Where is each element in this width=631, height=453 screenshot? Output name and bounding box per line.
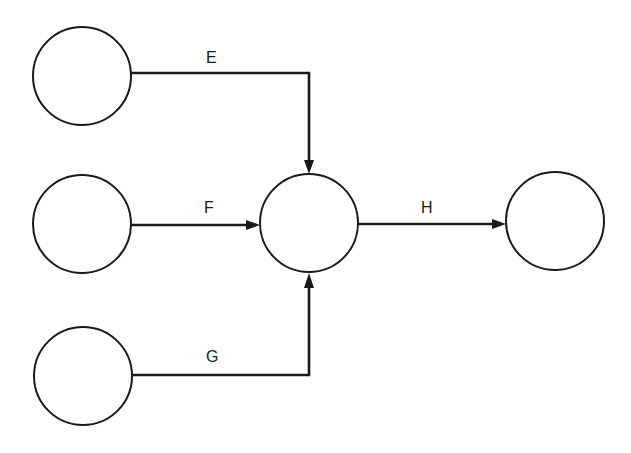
edge-f: F [131, 199, 260, 230]
arrow-down-icon [304, 160, 314, 174]
edge-label-e: E [206, 49, 217, 66]
node-3 [34, 327, 132, 425]
arrow-up-icon [304, 273, 314, 288]
edge-e: E [131, 49, 314, 174]
edge-label-h: H [421, 199, 433, 216]
arrow-right-icon [246, 220, 260, 230]
network-diagram: E F G H [0, 0, 631, 453]
node-2 [33, 175, 131, 273]
edge-h: H [358, 199, 506, 229]
edge-label-g: G [206, 348, 218, 365]
node-1 [33, 27, 131, 125]
edge-g: G [132, 273, 314, 375]
arrow-right-icon [492, 219, 506, 229]
edge-label-f: F [204, 199, 214, 216]
node-5 [506, 172, 604, 270]
node-4 [260, 174, 358, 272]
